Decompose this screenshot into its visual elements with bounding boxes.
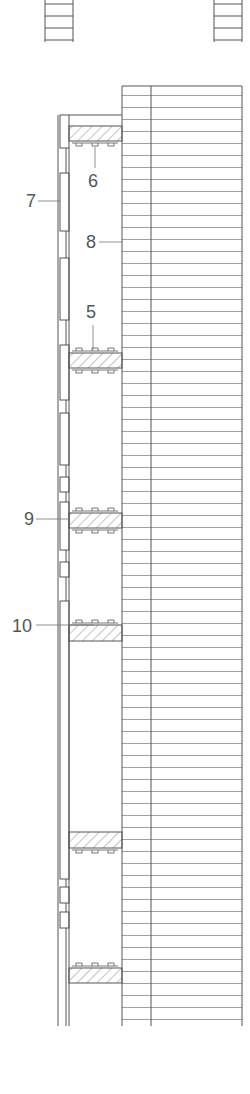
label-9: 9 [24, 510, 34, 528]
section-drawing [0, 0, 250, 1094]
slab-2 [69, 968, 122, 983]
wall-8 [122, 86, 242, 1026]
label-10: 10 [12, 617, 32, 635]
top-left-fragment [45, 0, 73, 42]
leader-lines [36, 147, 122, 625]
label-6: 6 [88, 172, 98, 190]
slab-9 [69, 513, 122, 528]
label-7: 7 [26, 192, 36, 210]
slab-6 [69, 126, 122, 141]
top-right-fragment [214, 0, 242, 42]
label-5: 5 [86, 303, 96, 321]
slab-3 [69, 832, 122, 848]
slab-4 [69, 625, 122, 641]
label-8: 8 [86, 233, 96, 251]
slab-5 [69, 353, 122, 368]
